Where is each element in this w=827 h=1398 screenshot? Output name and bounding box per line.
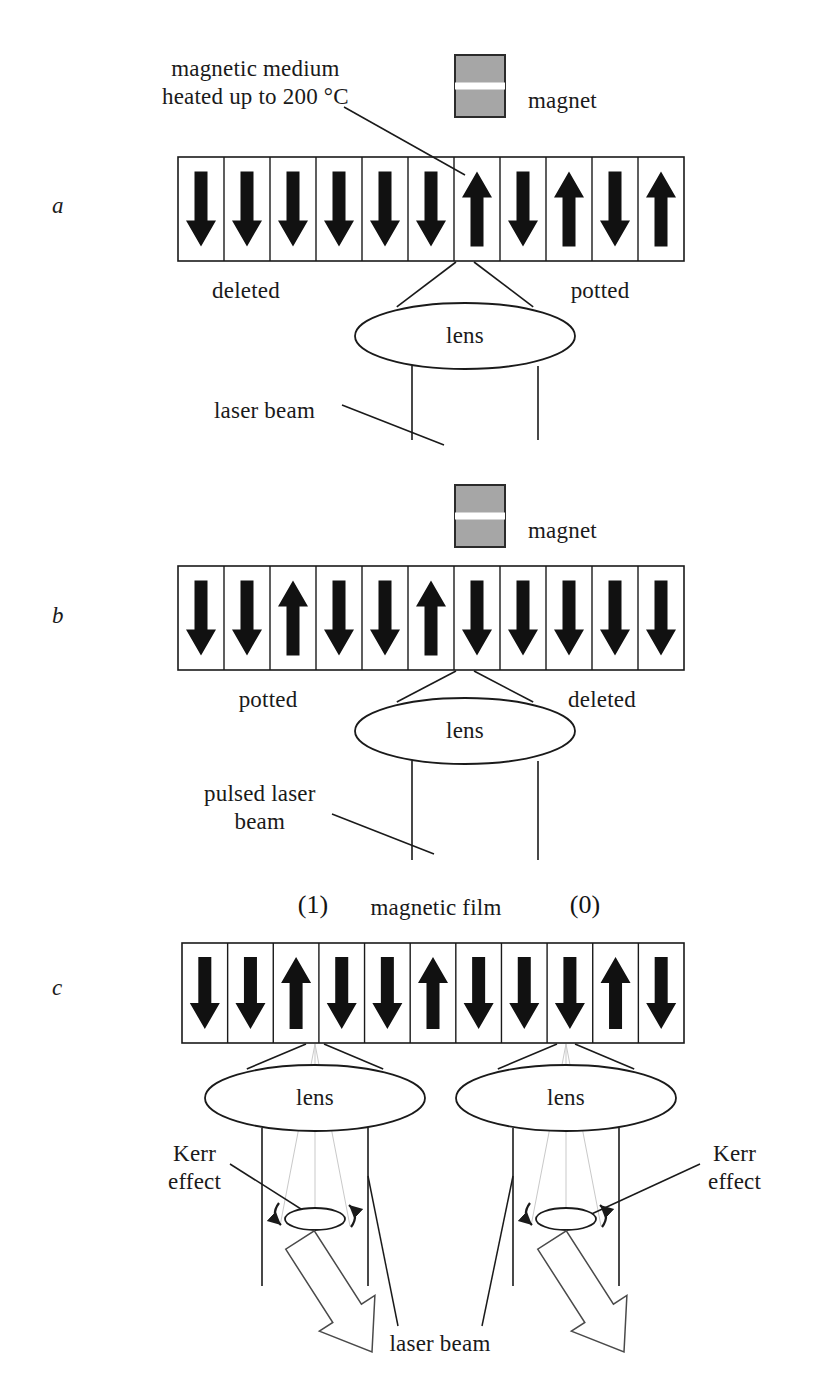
kerr-arrow-left xyxy=(275,1203,281,1225)
magnet-pole-gap-b xyxy=(455,513,505,520)
magnetic-medium-callout-line2: heated up to 200 °C xyxy=(162,83,349,111)
kerr-rotation-ellipse xyxy=(536,1208,596,1230)
laser-beam-leader-b xyxy=(332,814,434,854)
laser-beam-leader-right xyxy=(482,1176,513,1326)
kerr-effect-line1: Kerr xyxy=(708,1140,761,1168)
bit-one-label: (1) xyxy=(298,890,328,920)
zone-potted: potted xyxy=(239,686,298,714)
kerr-effect-line2: effect xyxy=(708,1168,761,1196)
magnet-pole-gap-a xyxy=(455,83,505,90)
magnetic-medium-callout-line1: magnetic medium xyxy=(162,55,349,83)
pulsed-laser-beam-callout: pulsed laserbeam xyxy=(204,780,316,836)
magnet-label-a: magnet xyxy=(528,87,597,115)
panel-letter-a: a xyxy=(52,193,64,219)
kerr-effect-label: Kerreffect xyxy=(708,1140,761,1196)
lens-label: lens xyxy=(446,322,484,350)
zone-potted: potted xyxy=(571,277,630,305)
laser-beam-leader-a xyxy=(342,405,444,445)
lens-cone-left xyxy=(397,262,456,307)
lens-label: lens xyxy=(547,1084,585,1112)
zone-deleted: deleted xyxy=(568,686,636,714)
laser-beam-callout: laser beam xyxy=(214,397,315,425)
bit-zero-label: (0) xyxy=(570,890,600,920)
pulsed-laser-beam-callout-line1: pulsed laser xyxy=(204,780,316,808)
lens-cone-right xyxy=(474,262,533,307)
lens-cone-left xyxy=(397,671,456,702)
panel-letter-c: c xyxy=(52,975,62,1001)
lens-cone-right xyxy=(474,671,533,702)
lens-label: lens xyxy=(296,1084,334,1112)
figure-canvas: amagnetdeletedpottedmagnetic mediumheate… xyxy=(0,0,827,1398)
zone-deleted: deleted xyxy=(212,277,280,305)
kerr-arrow-left xyxy=(526,1203,532,1225)
diagram-svg xyxy=(0,0,827,1398)
magnetic-medium-callout: magnetic mediumheated up to 200 °C xyxy=(162,55,349,111)
output-beam-arrow xyxy=(538,1231,627,1352)
panel-letter-b: b xyxy=(52,603,64,629)
kerr-effect-line2: effect xyxy=(168,1168,221,1196)
output-beam-arrow xyxy=(286,1231,375,1352)
magnet-label-b: magnet xyxy=(528,517,597,545)
kerr-rotation-ellipse xyxy=(285,1208,345,1230)
kerr-effect-line1: Kerr xyxy=(168,1140,221,1168)
magnetic-film-label: magnetic film xyxy=(371,894,502,922)
kerr-effect-label: Kerreffect xyxy=(168,1140,221,1196)
pulsed-laser-beam-callout-line2: beam xyxy=(204,808,316,836)
laser-beam-label: laser beam xyxy=(390,1330,491,1358)
lens-label: lens xyxy=(446,717,484,745)
